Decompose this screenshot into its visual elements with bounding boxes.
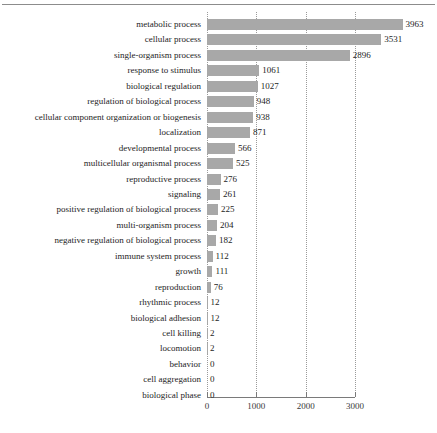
category-label: developmental process bbox=[0, 142, 201, 154]
category-label: reproductive process bbox=[0, 173, 201, 185]
bar-row: biological phase0 bbox=[0, 390, 437, 405]
bar-value-label: 3963 bbox=[406, 19, 424, 30]
category-label: rhythmic process bbox=[0, 296, 201, 308]
bar-value-label: 0 bbox=[210, 390, 215, 401]
category-label: negative regulation of biological proces… bbox=[0, 234, 201, 246]
bar-row: localization871 bbox=[0, 127, 437, 142]
bar-value-label: 112 bbox=[216, 251, 229, 262]
bar-value-label: 204 bbox=[220, 220, 234, 231]
bar bbox=[207, 50, 350, 61]
bar bbox=[207, 313, 208, 324]
bar bbox=[207, 19, 403, 30]
bar-row: reproduction76 bbox=[0, 282, 437, 297]
bar-value-label: 938 bbox=[256, 112, 270, 123]
bar-value-label: 111 bbox=[215, 266, 228, 277]
bar-row: multi-organism process204 bbox=[0, 220, 437, 235]
bar-row: single-organism process2896 bbox=[0, 50, 437, 65]
bar-row: cellular component organization or bioge… bbox=[0, 112, 437, 127]
bar-value-label: 0 bbox=[210, 359, 215, 370]
category-label: cell killing bbox=[0, 327, 201, 339]
bar bbox=[207, 189, 220, 200]
category-label: reproduction bbox=[0, 281, 201, 293]
bar-row: metabolic process3963 bbox=[0, 19, 437, 34]
category-label: immune system process bbox=[0, 250, 201, 262]
bar-value-label: 225 bbox=[221, 204, 235, 215]
bar-value-label: 2896 bbox=[353, 50, 371, 61]
bar-value-label: 948 bbox=[257, 96, 271, 107]
bar-value-label: 1027 bbox=[261, 81, 279, 92]
bar bbox=[207, 127, 250, 138]
bar-row: biological adhesion12 bbox=[0, 313, 437, 328]
category-label: multicellular organismal process bbox=[0, 157, 201, 169]
bar-value-label: 0 bbox=[210, 374, 215, 385]
category-label: biological regulation bbox=[0, 80, 201, 92]
bar-value-label: 261 bbox=[223, 189, 237, 200]
category-label: cellular process bbox=[0, 33, 201, 45]
category-label: regulation of biological process bbox=[0, 95, 201, 107]
bar-row: immune system process112 bbox=[0, 251, 437, 266]
category-label: cellular component organization or bioge… bbox=[0, 111, 201, 123]
bar bbox=[207, 34, 381, 45]
category-label: response to stimulus bbox=[0, 64, 201, 76]
bar-value-label: 2 bbox=[210, 328, 215, 339]
bar-row: behavior0 bbox=[0, 359, 437, 374]
bar bbox=[207, 282, 211, 293]
category-label: single-organism process bbox=[0, 49, 201, 61]
bar-row: rhythmic process12 bbox=[0, 297, 437, 312]
bar-row: multicellular organismal process525 bbox=[0, 158, 437, 173]
bar bbox=[207, 235, 216, 246]
category-label: localization bbox=[0, 126, 201, 138]
bar-chart-plot-area: 0100020003000metabolic process3963cellul… bbox=[0, 0, 437, 433]
bar bbox=[207, 96, 254, 107]
bar bbox=[207, 297, 208, 308]
bar bbox=[207, 220, 217, 231]
bar-value-label: 182 bbox=[219, 235, 233, 246]
bar bbox=[207, 112, 253, 123]
category-label: behavior bbox=[0, 358, 201, 370]
bar-value-label: 2 bbox=[210, 343, 215, 354]
bar-row: regulation of biological process948 bbox=[0, 96, 437, 111]
bar-row: negative regulation of biological proces… bbox=[0, 235, 437, 250]
bar-value-label: 12 bbox=[211, 313, 220, 324]
bar-row: biological regulation1027 bbox=[0, 81, 437, 96]
category-label: cell aggregation bbox=[0, 373, 201, 385]
bar-row: reproductive process276 bbox=[0, 174, 437, 189]
bar bbox=[207, 158, 233, 169]
bar-row: signaling261 bbox=[0, 189, 437, 204]
bar bbox=[207, 266, 212, 277]
bar bbox=[207, 204, 218, 215]
category-label: positive regulation of biological proces… bbox=[0, 203, 201, 215]
bar-value-label: 525 bbox=[236, 158, 250, 169]
bar-value-label: 276 bbox=[224, 174, 238, 185]
bar-value-label: 76 bbox=[214, 282, 223, 293]
bar-row: cellular process3531 bbox=[0, 34, 437, 49]
bar-row: locomotion2 bbox=[0, 343, 437, 358]
bar-row: growth111 bbox=[0, 266, 437, 281]
category-label: growth bbox=[0, 265, 201, 277]
bar-value-label: 12 bbox=[211, 297, 220, 308]
category-label: biological adhesion bbox=[0, 312, 201, 324]
bar-row: response to stimulus1061 bbox=[0, 65, 437, 80]
bar bbox=[207, 81, 258, 92]
bar-row: cell aggregation0 bbox=[0, 374, 437, 389]
bar-value-label: 566 bbox=[238, 143, 252, 154]
category-label: multi-organism process bbox=[0, 219, 201, 231]
category-label: biological phase bbox=[0, 389, 201, 401]
bar-value-label: 871 bbox=[253, 127, 267, 138]
category-label: signaling bbox=[0, 188, 201, 200]
bar-row: positive regulation of biological proces… bbox=[0, 204, 437, 219]
bar bbox=[207, 65, 259, 76]
category-label: metabolic process bbox=[0, 18, 201, 30]
bar-value-label: 3531 bbox=[384, 34, 402, 45]
bar bbox=[207, 251, 213, 262]
bar-row: cell killing2 bbox=[0, 328, 437, 343]
chart-page: 0100020003000metabolic process3963cellul… bbox=[0, 0, 437, 433]
category-label: locomotion bbox=[0, 342, 201, 354]
bar bbox=[207, 143, 235, 154]
bar-row: developmental process566 bbox=[0, 143, 437, 158]
bar-value-label: 1061 bbox=[262, 65, 280, 76]
bar bbox=[207, 174, 221, 185]
